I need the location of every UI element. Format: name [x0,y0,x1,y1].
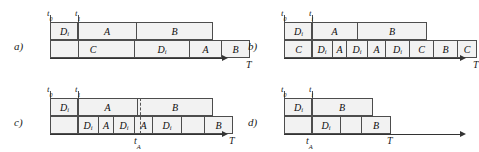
panel-b-top-row-cell: Di [284,22,313,40]
panel-d-bottom-row-cell: Di [311,116,341,134]
panel-a-bottom-row-cell: Di [134,40,190,58]
panel-d-axis-arrowhead-icon [460,131,466,137]
panel-b-bottom-row-cell: Di [311,40,333,58]
panel-c-bottom-row-cell: A [98,116,114,134]
panel-d-bottom-row-cell: B [361,116,391,134]
panel-a-axis-arrowhead-icon [222,55,228,61]
panel-label-d: d) [248,116,257,128]
panel-b-time-axis [284,58,460,59]
panel-a-bottom-row-cell: A [189,40,222,58]
panel-b-bottom-row: CDiADiADiCBC [284,40,478,58]
panel-d-tick-label-t1: ti [309,84,313,96]
panel-a-tick-label-t0: t0 [47,8,53,20]
panel-d-bottom-row: DiB [284,116,392,134]
panel-d-axis-label-tA: tA [306,135,313,148]
panel-a-top-row-cell: Di [50,22,79,40]
panel-a-tick-label-t1: t1 [75,8,81,20]
panel-c-tick-label-t1: t1 [75,84,81,96]
panel-b-bottom-row-cell: A [332,40,347,58]
panel-b-bottom-row-cell: B [433,40,458,58]
panel-b-top-row: DiAB [284,22,428,40]
panel-b-tick-label-t1: ti [309,8,313,20]
panel-c-bottom-row-cell [181,116,205,134]
panel-d-axis-label-T: T [387,135,393,146]
panel-label-c: c) [14,116,23,128]
panel-c-tick-label-t0: t0 [47,84,53,96]
panel-d-bottom-row-cell [340,116,362,134]
panel-b-tick-label-t0: t0 [281,8,287,20]
panel-d-tick-label-t0: t0 [281,84,287,96]
panel-b-bottom-row-cell: C [409,40,434,58]
panel-c-marker-line [140,98,141,134]
panel-c-axis-arrowhead-icon [222,131,228,137]
panel-d-top-row: DiB [284,98,374,116]
panel-d-top-row-cell: B [311,98,373,116]
panel-c-axis-label-tA: tA [134,135,141,148]
panel-a-top-row: DiAB [50,22,214,40]
panel-d-bottom-row-cell [284,116,313,134]
panel-a-top-row-cell: A [77,22,137,40]
panel-a-bottom-row: CDiAB [50,40,251,58]
panel-b-top-row-cell: A [311,22,358,40]
panel-a-top-row-cell: B [136,22,213,40]
panel-c-axis-label-T: T [229,135,235,146]
panel-a-time-axis [50,58,222,59]
panel-c-bottom-row-cell: Di [152,116,182,134]
panel-c-top-row-cell: A [77,98,138,116]
panel-b-bottom-row-cell: C [284,40,313,58]
panel-b-bottom-row-cell: Di [385,40,410,58]
panel-b-axis-label-T: T [473,59,479,70]
panel-c-bottom-row-cell [50,116,79,134]
panel-b-bottom-row-cell: Di [346,40,368,58]
panel-a-bottom-row-cell: C [50,40,136,58]
panel-c-top-row-cell: B [137,98,213,116]
panel-c-top-row-cell: Di [50,98,79,116]
panel-label-b: b) [248,40,257,52]
panel-b-bottom-row-cell: A [367,40,386,58]
panel-c-top-row: DiAB [50,98,214,116]
panel-d-top-row-cell: Di [284,98,313,116]
panel-a-axis-label-T: T [246,59,252,70]
panel-c-bottom-row-cell: B [204,116,233,134]
panel-label-a: a) [14,40,23,52]
panel-b-top-row-cell: B [357,22,427,40]
panel-c-bottom-row-cell: Di [113,116,135,134]
panel-b-axis-arrowhead-icon [460,55,466,61]
panel-c-bottom-row-cell: Di [77,116,99,134]
panel-c-bottom-row-cell: A [134,116,153,134]
